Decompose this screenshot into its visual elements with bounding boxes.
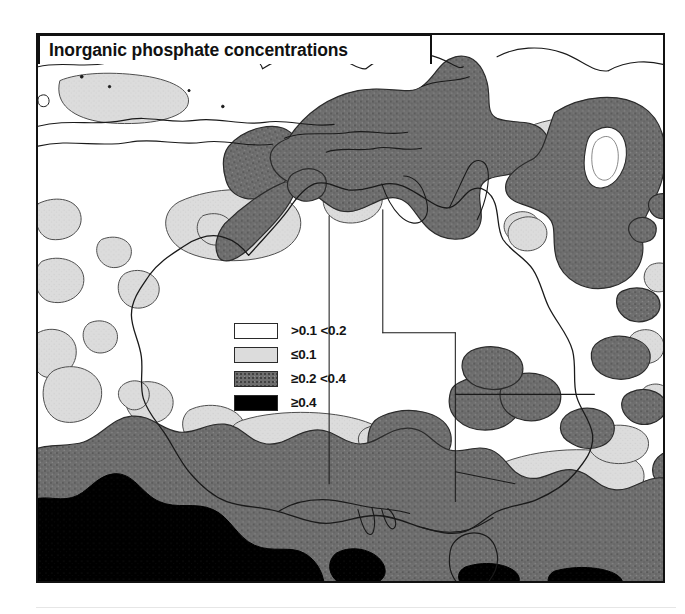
zone-low-indian-1 [38, 199, 81, 240]
legend-label-mid: >0.1 <0.2 [291, 323, 346, 338]
legend-item-0: >0.1 <0.2 [234, 319, 346, 342]
concentration-map [38, 35, 663, 581]
figure-root: >0.1 <0.2 ≤0.1 ≥0.2 <0.4 ≥0.4 Inorganic … [0, 0, 685, 614]
legend-swatch-very-high [234, 395, 278, 411]
legend-item-2: ≥0.2 <0.4 [234, 367, 346, 390]
zone-high-se-5 [560, 408, 614, 448]
zone-mid-coral-eye-inner [592, 136, 619, 180]
map-frame: >0.1 <0.2 ≤0.1 ≥0.2 <0.4 ≥0.4 [36, 33, 665, 583]
zone-low-indian-4 [43, 367, 102, 423]
zone-low-coral-notch [508, 217, 547, 251]
island-dot-1 [80, 75, 83, 78]
scan-rule [36, 607, 676, 608]
zone-high-east-blob-3 [629, 218, 657, 243]
map-title-box: Inorganic phosphate concentrations [38, 34, 432, 64]
legend-swatch-mid [234, 323, 278, 339]
map-legend: >0.1 <0.2 ≤0.1 ≥0.2 <0.4 ≥0.4 [234, 319, 346, 415]
zone-high-east-blob-2 [591, 336, 650, 379]
island-dot-3 [188, 90, 190, 92]
legend-swatch-low [234, 347, 278, 363]
legend-item-1: ≤0.1 [234, 343, 346, 366]
zone-high-nw-2 [287, 169, 326, 201]
zone-low-indian-6 [118, 270, 159, 308]
zone-high-se-4 [462, 347, 523, 390]
legend-item-3: ≥0.4 [234, 391, 346, 414]
zone-low-indian-2 [38, 258, 84, 302]
legend-swatch-high [234, 371, 278, 387]
island-dot-4 [222, 105, 225, 108]
zone-low-indian-5 [83, 321, 117, 353]
legend-label-high: ≥0.2 <0.4 [291, 371, 346, 386]
island-dot-2 [108, 85, 110, 87]
legend-label-very-high: ≥0.4 [291, 395, 316, 410]
zone-low-indian-7 [97, 237, 132, 267]
page-title: Inorganic phosphate concentrations [40, 40, 348, 61]
legend-label-low: ≤0.1 [291, 347, 316, 362]
